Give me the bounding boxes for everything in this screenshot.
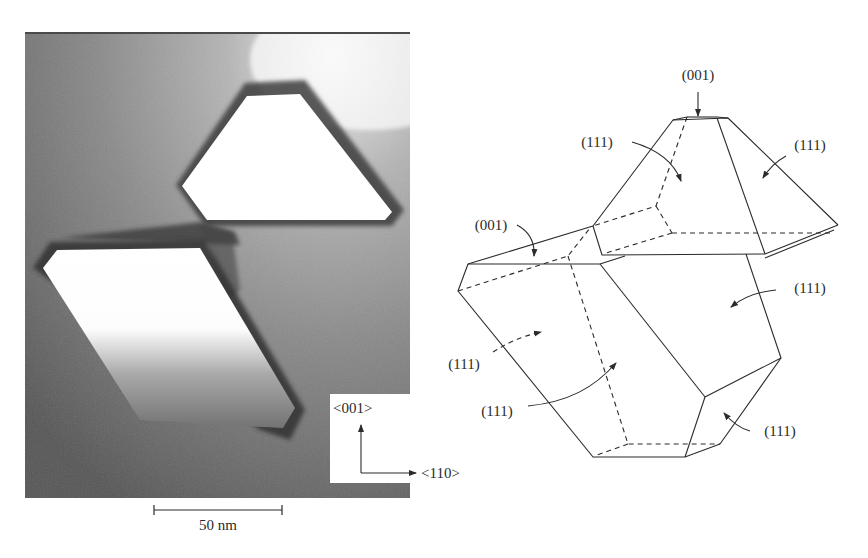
face-pointers bbox=[493, 92, 786, 431]
tem-micrograph bbox=[25, 0, 490, 498]
crystal-schematic: (001) (111) (111) (001) (111) (111) (111… bbox=[448, 67, 838, 457]
scale-bar: 50 nm bbox=[154, 505, 282, 533]
pointer-lower-left-111 bbox=[528, 363, 616, 406]
label-upper-left-111: (111) bbox=[581, 134, 612, 151]
axis-110-label: <110> bbox=[421, 465, 460, 481]
label-left-001: (001) bbox=[475, 217, 508, 234]
axis-001-label: <001> bbox=[333, 400, 372, 416]
pointer-bottom-right-111 bbox=[724, 413, 750, 431]
label-middle-right-111: (111) bbox=[794, 280, 825, 297]
pointer-left-001 bbox=[517, 225, 534, 256]
pointer-upper-right-111 bbox=[763, 156, 786, 178]
pointer-left-hidden-111 bbox=[493, 332, 541, 352]
label-left-hidden-111: (111) bbox=[448, 356, 479, 373]
label-top-001: (001) bbox=[682, 67, 715, 84]
scale-bar-label: 50 nm bbox=[199, 517, 237, 533]
pointer-middle-right-111 bbox=[731, 290, 776, 307]
pointer-upper-left-111 bbox=[632, 142, 681, 181]
figure: <001> <110> 50 nm bbox=[0, 0, 868, 558]
lower-crystal bbox=[458, 226, 781, 457]
label-upper-right-111: (111) bbox=[794, 137, 825, 154]
orientation-axes: <001> <110> bbox=[330, 394, 460, 483]
label-bottom-right-111: (111) bbox=[764, 423, 795, 440]
label-lower-left-111: (111) bbox=[481, 403, 512, 420]
